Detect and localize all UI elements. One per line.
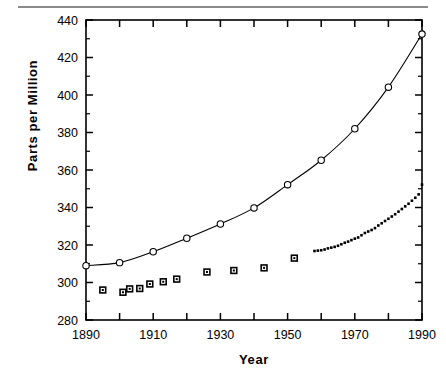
y-axis-tick-labels: 280300320340360380400420440 bbox=[57, 14, 78, 328]
svg-text:1910: 1910 bbox=[139, 328, 167, 342]
series-mauna-loa-markers bbox=[313, 183, 423, 252]
svg-text:1890: 1890 bbox=[72, 328, 100, 342]
svg-text:320: 320 bbox=[57, 239, 78, 253]
x-axis-ticks bbox=[86, 20, 422, 320]
svg-text:440: 440 bbox=[57, 14, 78, 28]
plot-frame bbox=[86, 20, 422, 320]
svg-text:1990: 1990 bbox=[408, 328, 436, 342]
x-axis-title: Year bbox=[86, 352, 422, 367]
y-axis-title: Parts per Million bbox=[25, 36, 40, 196]
svg-text:1970: 1970 bbox=[341, 328, 369, 342]
svg-text:1930: 1930 bbox=[206, 328, 234, 342]
y-axis-ticks bbox=[86, 20, 422, 320]
series-ice-core-markers bbox=[100, 255, 297, 295]
plot-canvas: 280300320340360380400420440 189019101930… bbox=[0, 0, 446, 382]
x-axis-tick-labels: 189019101930195019701990 bbox=[72, 328, 436, 342]
co2-chart: 280300320340360380400420440 189019101930… bbox=[0, 0, 446, 382]
svg-text:380: 380 bbox=[57, 126, 78, 140]
svg-text:300: 300 bbox=[57, 276, 78, 290]
svg-text:1950: 1950 bbox=[274, 328, 302, 342]
svg-text:340: 340 bbox=[57, 201, 78, 215]
series-smoothed-trend-markers bbox=[83, 31, 425, 269]
svg-text:400: 400 bbox=[57, 89, 78, 103]
svg-text:420: 420 bbox=[57, 51, 78, 65]
svg-text:360: 360 bbox=[57, 164, 78, 178]
svg-text:280: 280 bbox=[57, 314, 78, 328]
